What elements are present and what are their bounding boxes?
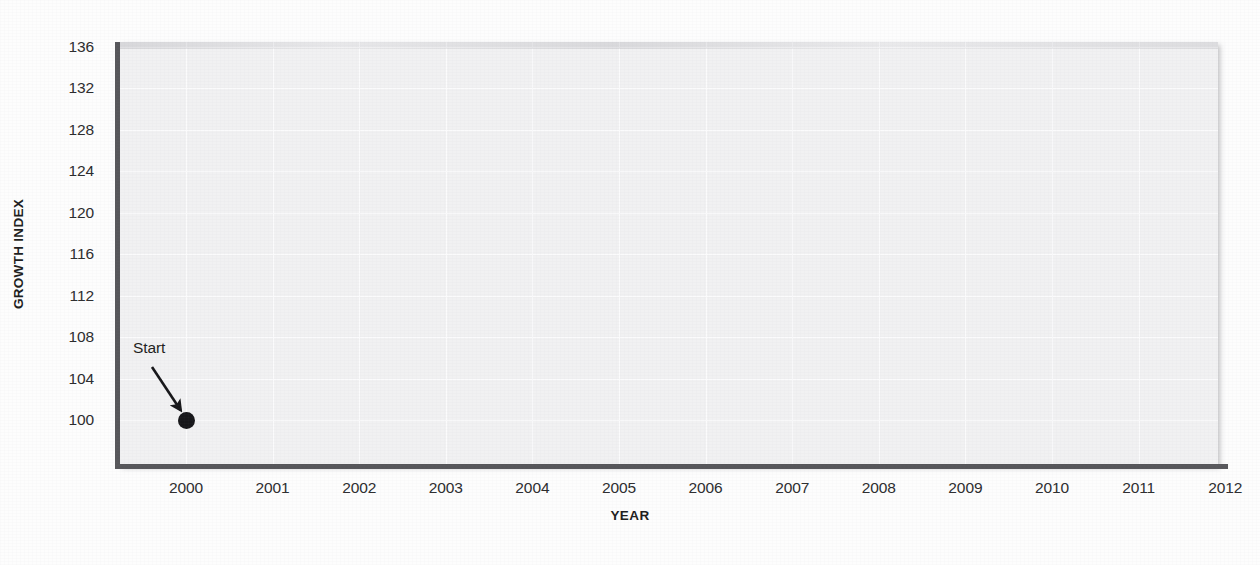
y-tick-label: 112 [48, 288, 94, 304]
x-tick-label: 2009 [930, 480, 1000, 496]
gridline-vertical [532, 42, 533, 467]
gridline-vertical [1139, 42, 1140, 467]
gridline-vertical [792, 42, 793, 467]
x-tick-label: 2007 [757, 480, 827, 496]
gridline-vertical [186, 42, 187, 467]
gridline-horizontal [118, 130, 1218, 131]
gridline-vertical [1225, 42, 1226, 467]
plot-area [118, 42, 1218, 467]
y-axis-title: GROWTH INDEX [11, 199, 26, 309]
gridline-vertical [965, 42, 966, 467]
gridline-horizontal [118, 254, 1218, 255]
y-tick-label: 132 [48, 80, 94, 96]
y-tick-label: 136 [48, 39, 94, 55]
x-tick-label: 2006 [671, 480, 741, 496]
gridline-vertical [446, 42, 447, 467]
y-tick-label: 100 [48, 412, 94, 428]
gridline-vertical [619, 42, 620, 467]
x-axis-title: YEAR [0, 508, 1260, 523]
gridline-horizontal [118, 420, 1218, 421]
x-tick-label: 2002 [324, 480, 394, 496]
y-tick-label: 108 [48, 329, 94, 345]
gridline-vertical [359, 42, 360, 467]
y-tick-label: 128 [48, 122, 94, 138]
x-tick-label: 2012 [1190, 480, 1260, 496]
gridline-horizontal [118, 47, 1218, 48]
x-tick-label: 2008 [844, 480, 914, 496]
growth-index-chart: 100104108112116120124128132136 200020012… [0, 0, 1260, 565]
gridline-vertical [879, 42, 880, 467]
gridline-horizontal [118, 213, 1218, 214]
gridline-vertical [1052, 42, 1053, 467]
x-tick-label: 2004 [497, 480, 567, 496]
gridline-horizontal [118, 171, 1218, 172]
y-tick-label: 120 [48, 205, 94, 221]
y-axis-line [115, 42, 120, 469]
gridline-horizontal [118, 379, 1218, 380]
x-tick-label: 2003 [411, 480, 481, 496]
x-axis-line [115, 464, 1228, 469]
y-tick-label: 116 [48, 246, 94, 262]
x-tick-label: 2000 [151, 480, 221, 496]
gridline-vertical [273, 42, 274, 467]
x-tick-label: 2001 [238, 480, 308, 496]
gridline-horizontal [118, 296, 1218, 297]
x-tick-label: 2005 [584, 480, 654, 496]
y-tick-label: 124 [48, 163, 94, 179]
x-tick-label: 2010 [1017, 480, 1087, 496]
x-tick-label: 2011 [1104, 480, 1174, 496]
gridline-vertical [706, 42, 707, 467]
y-tick-label: 104 [48, 371, 94, 387]
gridline-horizontal [118, 337, 1218, 338]
gridline-horizontal [118, 88, 1218, 89]
